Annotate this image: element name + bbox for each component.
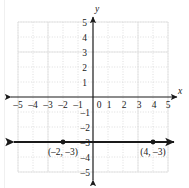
y-tick-label-neg3: –3 xyxy=(80,138,91,148)
plotted-point-b xyxy=(151,140,156,145)
y-tick-label-neg1: –1 xyxy=(80,108,91,118)
x-axis-label: x xyxy=(177,86,183,96)
plotted-point-a xyxy=(61,140,66,145)
x-tick-label-neg2: –2 xyxy=(57,100,68,110)
x-tick-label-neg3: –3 xyxy=(42,100,53,110)
y-axis-label: y xyxy=(94,4,100,14)
y-tick-label-3: 3 xyxy=(82,48,87,58)
origin-label: 0 xyxy=(97,100,102,110)
y-tick-label-4: 4 xyxy=(82,33,87,43)
y-tick-label-5: 5 xyxy=(82,18,87,28)
y-tick-label-neg5: –5 xyxy=(80,168,91,178)
x-tick-label-4: 4 xyxy=(152,100,157,110)
y-tick-label-neg4: –4 xyxy=(80,153,91,163)
plotted-point-a-label: (–2, –3) xyxy=(48,147,78,158)
x-tick-label-neg4: –4 xyxy=(27,100,38,110)
coordinate-graph: x y –5 –4 –3 –2 –1 0 1 2 3 4 5 1 2 3 4 5… xyxy=(0,0,189,188)
plotted-point-b-label: (4, –3) xyxy=(140,147,165,158)
x-tick-label-1: 1 xyxy=(107,100,112,110)
y-tick-label-2: 2 xyxy=(82,63,87,73)
coordinate-plane-figure: x y –5 –4 –3 –2 –1 0 1 2 3 4 5 1 2 3 4 5… xyxy=(0,0,189,188)
y-tick-label-neg2: –2 xyxy=(80,123,91,133)
x-tick-label-neg5: –5 xyxy=(12,100,23,110)
x-tick-label-2: 2 xyxy=(122,100,127,110)
y-tick-label-1: 1 xyxy=(82,78,87,88)
x-tick-label-3: 3 xyxy=(137,100,142,110)
x-tick-label-5: 5 xyxy=(166,100,171,110)
